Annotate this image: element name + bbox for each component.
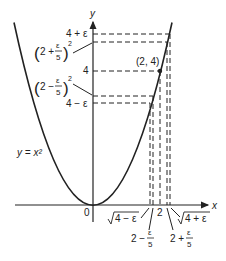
label-x-2: 2 (157, 207, 163, 218)
pointer-2-plus-sq (73, 43, 92, 53)
label-2-minus-eps5: 2 − ε 5 (131, 228, 154, 249)
y-axis-label: y (89, 8, 96, 19)
label-4: 4 (83, 65, 89, 76)
pointer-sqrt-4-minus-eps (141, 208, 149, 218)
parabola-epsilon-diagram: (2, 4) y x 0 y = x² 4 + ε 4 4 − ε ( 2 + … (0, 0, 226, 261)
point-label: (2, 4) (136, 56, 159, 67)
x-axis-label: x (211, 200, 218, 211)
label-4-minus-eps: 4 − ε (66, 98, 88, 109)
pointer-2-minus-sq (73, 84, 92, 95)
horizontal-dashed-guides (93, 34, 170, 103)
svg-text:5: 5 (148, 240, 153, 249)
svg-text:4 + ε: 4 + ε (185, 213, 207, 224)
pointer-2-minus-eps5 (149, 208, 153, 230)
svg-text:5: 5 (56, 88, 61, 97)
label-2-plus-eps5-squared: ( 2 + ε 5 ) 2 (34, 40, 72, 63)
origin-label: 0 (84, 207, 90, 218)
point-2-4 (158, 69, 162, 73)
svg-text:2 −: 2 − (40, 81, 54, 92)
svg-text:5: 5 (56, 53, 61, 62)
svg-text:ε: ε (187, 228, 191, 237)
svg-text:2: 2 (68, 40, 72, 47)
svg-text:ε: ε (56, 41, 60, 50)
label-4-plus-eps: 4 + ε (66, 28, 88, 39)
svg-text:ε: ε (56, 76, 60, 85)
svg-text:2 +: 2 + (170, 233, 184, 244)
svg-text:5: 5 (187, 240, 192, 249)
svg-text:ε: ε (148, 228, 152, 237)
curve-label: y = x² (16, 147, 42, 158)
label-2-minus-eps5-squared: ( 2 − ε 5 ) 2 (34, 75, 72, 98)
svg-text:2: 2 (68, 75, 72, 82)
label-sqrt-4-plus-eps: 4 + ε (178, 212, 210, 224)
label-2-plus-eps5: 2 + ε 5 (170, 228, 193, 249)
pointer-2-plus-eps5 (167, 208, 173, 230)
pointer-sqrt-4-plus-eps (171, 208, 180, 217)
svg-text:2 −: 2 − (131, 233, 145, 244)
svg-text:2 +: 2 + (40, 46, 54, 57)
label-sqrt-4-minus-eps: 4 − ε (108, 212, 139, 224)
svg-text:4 − ε: 4 − ε (115, 213, 137, 224)
